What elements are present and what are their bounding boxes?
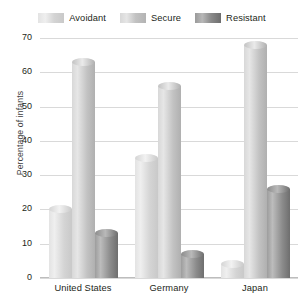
bar-body xyxy=(49,209,72,278)
bar-avoidant-germany[interactable] xyxy=(135,158,158,278)
bar-resistant-japan[interactable] xyxy=(267,189,290,278)
bar-body xyxy=(72,62,95,278)
bar-body xyxy=(135,158,158,278)
x-axis-tick-label: Japan xyxy=(212,283,298,293)
y-axis-title: Percentage of infants xyxy=(15,58,25,208)
legend-label-secure: Secure xyxy=(151,13,181,23)
y-axis-tick-label: 60 xyxy=(2,66,32,76)
legend-item-secure[interactable]: Secure xyxy=(120,13,181,23)
y-axis-tick-label: 0 xyxy=(2,272,32,282)
legend-swatch-avoidant-icon xyxy=(38,13,64,23)
bar-group xyxy=(40,38,126,278)
bar-group xyxy=(126,38,212,278)
bar-body xyxy=(244,45,267,278)
bar-body xyxy=(267,189,290,278)
x-axis-tick-labels: United StatesGermanyJapan xyxy=(40,283,298,293)
bar-top-ellipse xyxy=(158,82,181,90)
y-axis-tick-label: 70 xyxy=(2,32,32,42)
bar-top-ellipse xyxy=(72,58,95,66)
y-axis-tick-label: 40 xyxy=(2,135,32,145)
legend-label-avoidant: Avoidant xyxy=(69,13,106,23)
y-axis-tick-label: 50 xyxy=(2,101,32,111)
bar-groups xyxy=(40,38,298,278)
legend-swatch-secure-icon xyxy=(120,13,146,23)
legend-item-resistant[interactable]: Resistant xyxy=(195,13,266,23)
bar-top-ellipse xyxy=(267,185,290,193)
x-axis-tick-label: Germany xyxy=(126,283,212,293)
bar-group xyxy=(212,38,298,278)
legend-item-avoidant[interactable]: Avoidant xyxy=(38,13,106,23)
y-axis-tick-label: 20 xyxy=(2,203,32,213)
bar-resistant-germany[interactable] xyxy=(181,254,204,278)
bar-secure-germany[interactable] xyxy=(158,86,181,278)
bar-body xyxy=(158,86,181,278)
gridline xyxy=(40,278,298,279)
bar-avoidant-japan[interactable] xyxy=(221,264,244,278)
bar-secure-japan[interactable] xyxy=(244,45,267,278)
bar-top-ellipse xyxy=(244,41,267,49)
bar-top-ellipse xyxy=(135,154,158,162)
legend-label-resistant: Resistant xyxy=(226,13,266,23)
chart-legend: Avoidant Secure Resistant xyxy=(0,9,304,27)
y-axis-tick-label: 30 xyxy=(2,169,32,179)
legend-swatch-resistant-icon xyxy=(195,13,221,23)
bar-chart: Avoidant Secure Resistant Percentage of … xyxy=(0,0,304,306)
bar-avoidant-united-states[interactable] xyxy=(49,209,72,278)
bar-top-ellipse xyxy=(181,250,204,258)
bar-resistant-united-states[interactable] xyxy=(95,233,118,278)
plot-area xyxy=(40,38,298,278)
x-axis-tick-label: United States xyxy=(40,283,126,293)
bar-secure-united-states[interactable] xyxy=(72,62,95,278)
bar-body xyxy=(95,233,118,278)
y-axis-tick-label: 10 xyxy=(2,238,32,248)
